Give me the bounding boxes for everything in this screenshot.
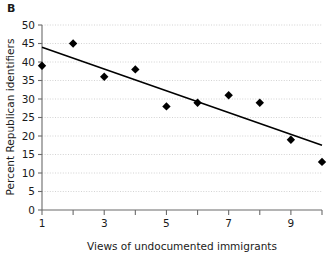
data-point — [131, 65, 139, 73]
gridlines-group — [42, 25, 322, 192]
y-tick-label-group: 05101520253035404550 — [22, 19, 35, 216]
data-point — [256, 99, 264, 107]
y-tick-label: 20 — [22, 130, 35, 142]
x-axis-title: Views of undocumented immigrants — [87, 240, 277, 252]
x-tick-label: 3 — [101, 217, 108, 229]
x-tick-label: 5 — [163, 217, 170, 229]
y-tick-label: 35 — [22, 74, 35, 86]
y-axis-title: Percent Republican identifiers — [4, 39, 16, 196]
x-tick-label: 1 — [39, 217, 46, 229]
data-point — [287, 136, 295, 144]
regression-line — [42, 47, 322, 145]
y-tick-group — [38, 25, 42, 210]
y-tick-label: 15 — [22, 148, 35, 160]
y-tick-label: 5 — [28, 185, 35, 197]
y-tick-label: 0 — [28, 204, 35, 216]
data-point — [224, 91, 232, 99]
data-point — [193, 99, 201, 107]
data-point — [38, 62, 46, 70]
data-point — [318, 158, 326, 166]
x-tick-label-group: 13579 — [39, 217, 295, 229]
y-tick-label: 30 — [22, 93, 35, 105]
data-point — [100, 73, 108, 81]
data-point-group — [38, 39, 326, 166]
x-tick-group — [42, 210, 322, 215]
y-tick-label: 50 — [22, 19, 35, 31]
scatter-plot: 05101520253035404550 13579 Views of undo… — [0, 0, 328, 261]
y-tick-label: 10 — [22, 167, 35, 179]
y-tick-label: 45 — [22, 37, 35, 49]
data-point — [162, 102, 170, 110]
y-tick-label: 25 — [22, 111, 35, 123]
y-tick-label: 40 — [22, 56, 35, 68]
chart-figure: B 05101520253035404550 13579 Views of un… — [0, 0, 328, 261]
x-tick-label: 7 — [225, 217, 232, 229]
x-tick-label: 9 — [288, 217, 295, 229]
data-point — [69, 39, 77, 47]
